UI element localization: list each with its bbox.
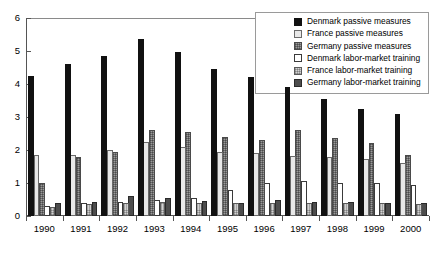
bar <box>112 152 118 216</box>
bar <box>149 130 155 216</box>
legend-item: Germany passive measures <box>260 40 424 52</box>
bar <box>185 132 191 216</box>
bar <box>374 183 380 216</box>
bar <box>217 152 223 216</box>
bar <box>92 202 98 216</box>
legend-swatch-icon <box>294 18 302 26</box>
bar <box>118 202 124 216</box>
legend-swatch-icon <box>294 67 302 75</box>
bar <box>405 155 411 216</box>
bar <box>50 207 56 216</box>
legend-swatch-icon <box>294 54 302 62</box>
bar <box>312 202 318 216</box>
legend-item: France passive measures <box>260 28 424 40</box>
bar <box>421 203 427 216</box>
bar <box>70 155 76 216</box>
legend-label: Germany passive measures <box>307 42 411 51</box>
legend-swatch-icon <box>294 30 302 38</box>
bar <box>28 76 34 216</box>
bar <box>180 147 186 216</box>
legend-item: Denmark passive measures <box>260 16 424 28</box>
bar <box>44 206 50 216</box>
bar <box>343 203 349 216</box>
bar <box>55 203 61 216</box>
bar <box>295 130 301 216</box>
bar <box>290 156 296 216</box>
bar <box>191 198 197 216</box>
bar <box>337 183 343 216</box>
legend-item: Denmark labor-market training <box>260 53 424 65</box>
bar <box>264 183 270 216</box>
bar <box>228 190 234 216</box>
bar <box>416 204 422 216</box>
bar <box>301 181 307 216</box>
bar <box>128 196 134 216</box>
bar <box>34 155 40 216</box>
bar <box>160 202 166 216</box>
bar <box>306 203 312 216</box>
bar-chart: 0123456 19901991199219931994199519961997… <box>0 0 437 253</box>
bar <box>154 200 160 216</box>
bar <box>379 203 385 216</box>
bar <box>238 203 244 216</box>
bar <box>327 157 333 216</box>
bar <box>175 52 181 216</box>
bar <box>138 39 144 216</box>
bar <box>143 142 149 216</box>
legend-item: France labor-market training <box>260 65 424 77</box>
legend-swatch-icon <box>294 79 302 87</box>
bar <box>81 203 87 216</box>
bar <box>332 138 338 216</box>
bar <box>385 203 391 216</box>
bar <box>101 56 107 216</box>
chart-legend: Denmark passive measuresFrance passive m… <box>255 12 429 94</box>
bar <box>39 183 45 216</box>
bar <box>285 87 291 216</box>
bar <box>395 114 401 216</box>
bar <box>400 163 406 216</box>
bar <box>123 203 129 216</box>
bar <box>358 109 364 216</box>
legend-swatch-icon <box>294 42 302 50</box>
bar <box>65 64 71 216</box>
bar <box>259 140 265 216</box>
bar <box>248 77 254 216</box>
bar <box>233 203 239 216</box>
bar <box>165 198 171 216</box>
bar <box>369 143 375 216</box>
bar <box>363 159 369 216</box>
bar <box>202 201 208 216</box>
bar <box>222 137 228 216</box>
legend-label: France passive measures <box>307 29 403 38</box>
bar <box>253 153 259 216</box>
bar <box>76 157 82 216</box>
bar <box>321 99 327 216</box>
legend-label: Germany labor-market training <box>307 78 421 87</box>
bar <box>86 204 92 216</box>
legend-label: France labor-market training <box>307 66 412 75</box>
bar <box>275 200 281 216</box>
legend-label: Denmark labor-market training <box>307 54 420 63</box>
legend-label: Denmark passive measures <box>307 17 411 26</box>
bar <box>196 203 202 216</box>
bar <box>411 185 417 216</box>
bar <box>270 203 276 216</box>
bar <box>348 202 354 216</box>
bar <box>107 150 113 216</box>
bar <box>211 69 217 216</box>
